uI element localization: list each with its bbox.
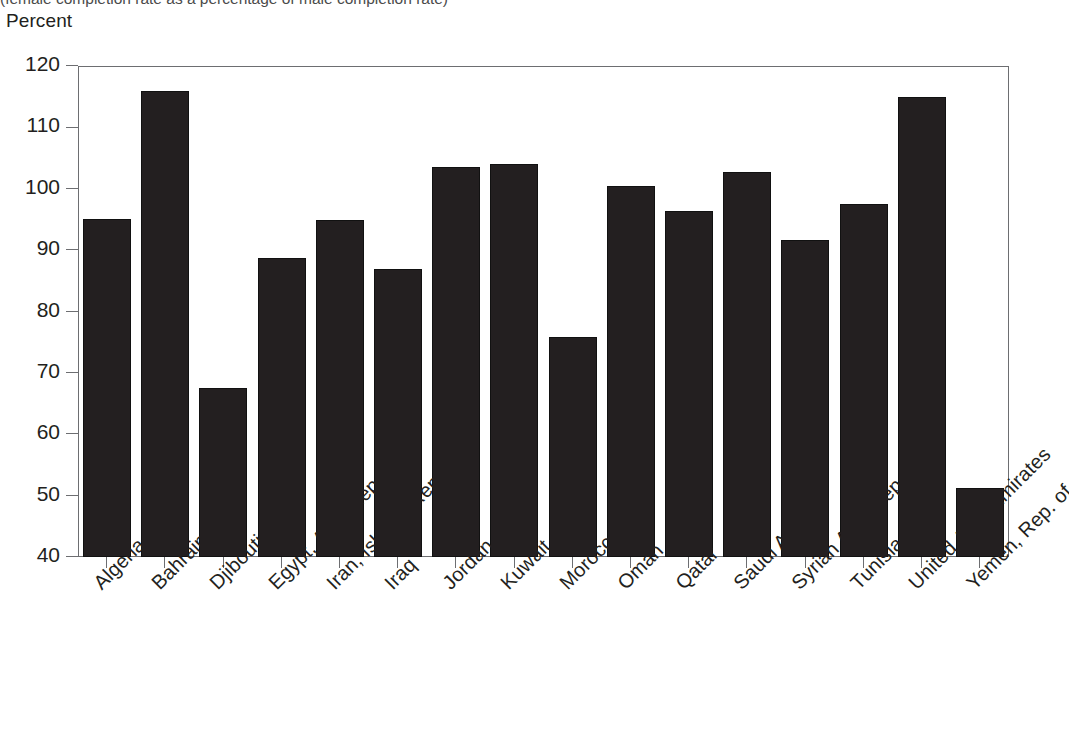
bar [432,167,480,557]
y-axis-tick-label: 70 [0,359,60,383]
bar [665,211,713,557]
y-axis-tick-label: 90 [0,236,60,260]
bar [141,91,189,557]
x-axis-tick-label: Iraq [380,553,421,594]
bar [549,337,597,557]
y-axis-tick [66,556,78,557]
y-axis-tick [66,249,78,250]
y-axis-tick [66,65,78,66]
y-axis-tick [66,495,78,496]
y-axis-tick-label: 60 [0,420,60,444]
bar-series [78,66,1009,557]
chart-page: (female completion rate as a percentage … [0,0,1069,752]
chart-subtitle-text: (female completion rate as a percentage … [0,0,700,7]
bar [490,164,538,557]
y-axis-tick-label: 110 [0,113,60,137]
y-axis-tick [66,433,78,434]
y-axis-tick-label: 50 [0,482,60,506]
y-axis-tick [66,127,78,128]
y-axis-tick-label: 40 [0,543,60,567]
y-axis-tick-label: 120 [0,52,60,76]
y-axis-unit-label: Percent [6,10,72,32]
bar [607,186,655,557]
y-axis-tick [66,188,78,189]
y-axis-tick [66,311,78,312]
bar [83,219,131,557]
bar [199,388,247,557]
y-axis-tick [66,372,78,373]
chart-subtitle-clipped: (female completion rate as a percentage … [0,0,700,7]
bar [723,172,771,557]
bar [258,258,306,557]
y-axis-tick-label: 100 [0,175,60,199]
y-axis-tick-label: 80 [0,298,60,322]
